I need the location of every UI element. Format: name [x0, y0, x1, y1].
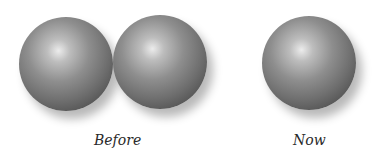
now-label: Now	[293, 133, 325, 147]
before-label: Before	[94, 133, 138, 147]
sphere-before-left	[19, 17, 113, 111]
sphere-before-right	[113, 15, 207, 109]
sphere-now	[262, 16, 356, 110]
before-panel: Before	[0, 0, 230, 162]
now-panel: Now	[240, 0, 380, 162]
